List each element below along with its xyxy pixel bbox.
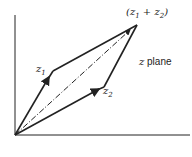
label-z-plane: z plane bbox=[139, 56, 172, 67]
vector-z1-tail bbox=[48, 71, 53, 79]
z2-sub: 2 bbox=[108, 91, 112, 99]
vector-sum-dashed bbox=[15, 30, 130, 135]
label-sum: (z1 + z2) bbox=[126, 6, 168, 20]
label-z1: z1 bbox=[36, 63, 46, 77]
sum-close: ) bbox=[164, 6, 168, 17]
sum-open: (z bbox=[126, 6, 135, 17]
vector-diagram-svg bbox=[0, 0, 192, 157]
label-z2: z2 bbox=[103, 85, 113, 99]
z1-sub: 1 bbox=[41, 69, 45, 77]
plane-word: plane bbox=[144, 56, 171, 67]
diagram: (z1 + z2) z1 z2 z plane bbox=[0, 0, 192, 157]
sum-plus: + z bbox=[140, 6, 160, 17]
